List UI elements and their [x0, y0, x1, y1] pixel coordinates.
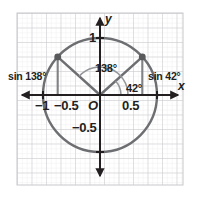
y-tick-label-neg0-5: −0.5 [72, 121, 96, 134]
y-axis-label: y [105, 13, 112, 25]
sin-label-138: sin 138° [8, 71, 46, 82]
y-tick-label-1: 1 [89, 31, 96, 44]
x-tick-label-0-5: 0.5 [122, 99, 139, 112]
x-tick-label-neg0-5: −0.5 [54, 99, 78, 112]
origin-label: O [88, 99, 98, 112]
diagram-canvas [0, 0, 199, 199]
unit-circle-figure: x y O −1 −0.5 0.5 1 −0.5 138° 42° sin 13… [0, 0, 199, 199]
sin-label-42: sin 42° [148, 71, 181, 82]
terminal-point-42 [139, 54, 146, 61]
terminal-point-138 [54, 54, 61, 61]
angle-label-42: 42° [126, 83, 142, 94]
x-tick-label-neg1: −1 [35, 99, 49, 112]
angle-label-138: 138° [95, 63, 117, 74]
